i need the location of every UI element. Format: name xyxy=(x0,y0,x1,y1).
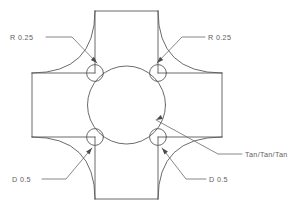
drawing-svg: R 0.25 R 0.25 D 0.5 D 0.5 Tan/Tan/Tan xyxy=(0,0,302,210)
cross-outline-group xyxy=(32,11,222,199)
arrowhead-diameter-bottom-right xyxy=(160,147,168,155)
fillet-arc-top-left xyxy=(32,11,95,73)
cad-drawing-canvas: R 0.25 R 0.25 D 0.5 D 0.5 Tan/Tan/Tan xyxy=(0,0,302,210)
fillet-arc-bottom-left xyxy=(32,137,95,199)
label-tangency-note: Tan/Tan/Tan xyxy=(245,150,288,159)
label-radius-top-left: R 0.25 xyxy=(10,33,33,42)
center-circle xyxy=(88,66,166,144)
leader-line-diameter-bottom-left xyxy=(42,148,92,179)
fillet-arcs-group xyxy=(32,11,222,199)
leader-line-radius-top-left xyxy=(46,37,97,63)
label-diameter-bottom-right: D 0.5 xyxy=(209,175,228,184)
fillet-arc-top-right xyxy=(158,11,222,73)
label-radius-top-right: R 0.25 xyxy=(208,33,231,42)
leader-line-diameter-bottom-right xyxy=(162,148,206,179)
label-diameter-bottom-left: D 0.5 xyxy=(12,175,31,184)
leaders-group xyxy=(42,37,242,179)
annotation-text-group: R 0.25 R 0.25 D 0.5 D 0.5 Tan/Tan/Tan xyxy=(10,33,288,184)
corner-circles-group xyxy=(87,65,167,146)
arrowhead-tangency-note xyxy=(155,115,163,122)
fillet-arc-bottom-right xyxy=(158,137,222,199)
leader-line-radius-top-right xyxy=(157,37,205,63)
